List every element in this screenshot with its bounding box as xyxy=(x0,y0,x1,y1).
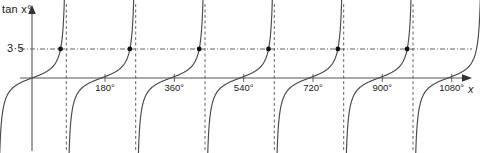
intersection-marker xyxy=(58,47,63,52)
x-axis-arrow-icon xyxy=(462,74,472,82)
threshold-value-label: 3·5 xyxy=(7,43,24,54)
intersection-marker xyxy=(266,47,271,52)
y-axis-label-degree: ° xyxy=(27,3,32,15)
intersection-marker xyxy=(197,47,202,52)
y-axis-label: tan x° xyxy=(2,4,31,15)
y-axis-label-text: tan x xyxy=(2,3,27,15)
intersection-marker xyxy=(405,47,410,52)
tan-curve-group xyxy=(0,0,480,153)
x-tick-label-720: 720° xyxy=(303,83,323,93)
intersection-marker xyxy=(335,47,340,52)
tan-curve-branch xyxy=(208,0,273,153)
x-tick-label-900: 900° xyxy=(372,83,392,93)
x-axis-label: x xyxy=(468,84,474,95)
tan-curve-branch xyxy=(138,0,203,153)
plot-canvas xyxy=(0,0,480,153)
x-tick-label-360: 360° xyxy=(164,83,184,93)
tan-curve-branch xyxy=(416,0,480,153)
tan-curve-branch xyxy=(277,0,342,153)
x-tick-label-1080: 1080° xyxy=(439,83,464,93)
x-tick-label-540: 540° xyxy=(234,83,254,93)
tan-curve-branch xyxy=(69,0,134,153)
tan-curve-branch xyxy=(346,0,411,153)
x-tick-label-180: 180° xyxy=(95,83,115,93)
tan-graph-figure: tan x° 3·5 x 180° 360° 540° 720° 900° 10… xyxy=(0,0,480,153)
intersection-marker xyxy=(127,47,132,52)
